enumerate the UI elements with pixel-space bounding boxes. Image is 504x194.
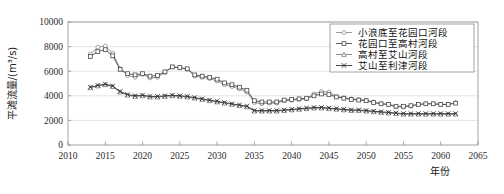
square-marker-icon	[402, 104, 406, 108]
square-marker-icon	[312, 94, 316, 98]
square-marker-icon	[282, 98, 286, 102]
legend-label-3: 高村至艾山河段	[358, 49, 428, 60]
x-axis-tick-label: 2015	[96, 151, 115, 161]
y-axis-tick-label: 8000	[44, 42, 63, 52]
x-axis-tick-label: 2020	[133, 151, 152, 161]
square-marker-icon	[416, 103, 420, 107]
square-marker-icon	[431, 102, 435, 106]
x-axis-tick-label: 2065	[469, 151, 488, 161]
square-marker-icon	[394, 104, 398, 108]
square-marker-icon	[454, 101, 458, 105]
circle-marker-icon	[96, 45, 100, 49]
square-marker-icon	[193, 73, 197, 77]
legend-label-2: 花园口至高村河段	[358, 38, 438, 49]
square-marker-icon	[327, 93, 331, 97]
x-axis-tick-label: 2060	[431, 151, 450, 161]
x-axis-tick-label: 2040	[282, 151, 301, 161]
square-marker-icon	[96, 50, 100, 54]
circle-marker-icon	[342, 31, 346, 35]
square-marker-icon	[223, 81, 227, 85]
square-marker-icon	[126, 72, 130, 76]
square-marker-icon	[424, 102, 428, 106]
square-marker-icon	[111, 54, 115, 58]
square-marker-icon	[88, 55, 92, 59]
y-axis-tick-label: 2000	[44, 116, 63, 126]
square-marker-icon	[148, 74, 152, 78]
square-marker-icon	[349, 98, 353, 102]
square-marker-icon	[342, 42, 346, 46]
square-marker-icon	[208, 75, 212, 79]
square-marker-icon	[215, 77, 219, 81]
square-marker-icon	[320, 92, 324, 96]
legend: 小浪底至花园口河段花园口至高村河段高村至艾山河段艾山至利津河段	[330, 24, 474, 72]
square-marker-icon	[141, 72, 145, 76]
legend-label-1: 小浪底至花园口河段	[358, 27, 448, 38]
square-marker-icon	[238, 85, 242, 89]
square-marker-icon	[163, 70, 167, 74]
x-axis-title: 年份	[430, 165, 450, 177]
square-marker-icon	[334, 95, 338, 99]
chart-container: 0200040006000800010000201020152020202520…	[0, 0, 504, 194]
square-marker-icon	[156, 74, 160, 78]
square-marker-icon	[200, 74, 204, 78]
square-marker-icon	[245, 88, 249, 92]
square-marker-icon	[446, 103, 450, 107]
square-marker-icon	[357, 98, 361, 102]
square-marker-icon	[305, 96, 309, 100]
square-marker-icon	[342, 96, 346, 100]
square-marker-icon	[297, 97, 301, 101]
y-axis-tick-label: 0	[58, 140, 63, 150]
square-marker-icon	[372, 101, 376, 105]
y-axis-tick-label: 4000	[44, 91, 63, 101]
x-axis-tick-label: 2050	[357, 151, 376, 161]
x-axis-tick-label: 2010	[59, 151, 78, 161]
square-marker-icon	[379, 102, 383, 106]
x-axis-tick-label: 2035	[245, 151, 264, 161]
y-axis-title: 平滩流量/(m³/s)	[6, 47, 18, 121]
x-axis-tick-label: 2045	[319, 151, 338, 161]
square-marker-icon	[439, 103, 443, 107]
square-marker-icon	[275, 100, 279, 104]
square-marker-icon	[290, 98, 294, 102]
square-marker-icon	[364, 99, 368, 103]
square-marker-icon	[185, 67, 189, 71]
y-axis-tick-label: 10000	[39, 17, 63, 27]
legend-label-4: 艾山至利津河段	[358, 60, 428, 71]
x-axis-tick-label: 2030	[208, 151, 227, 161]
square-marker-icon	[118, 67, 122, 71]
circle-marker-icon	[103, 44, 107, 48]
square-marker-icon	[178, 66, 182, 70]
flow-discharge-line-chart: 0200040006000800010000201020152020202520…	[0, 0, 504, 194]
square-marker-icon	[267, 100, 271, 104]
square-marker-icon	[260, 100, 264, 104]
y-axis-tick-label: 6000	[44, 67, 63, 77]
square-marker-icon	[387, 103, 391, 107]
x-axis-tick-label: 2055	[394, 151, 413, 161]
square-marker-icon	[409, 104, 413, 108]
square-marker-icon	[252, 99, 256, 103]
square-marker-icon	[103, 48, 107, 52]
square-marker-icon	[170, 65, 174, 69]
x-axis-tick-label: 2025	[170, 151, 189, 161]
square-marker-icon	[133, 73, 137, 77]
square-marker-icon	[230, 83, 234, 87]
